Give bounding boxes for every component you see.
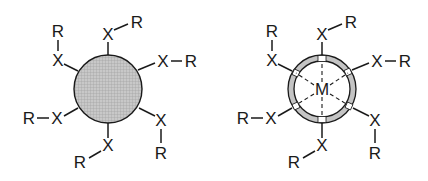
r-label-lower-left: R [237, 109, 249, 128]
bond-upper-left [64, 64, 78, 71]
xr-bond-bottom [89, 151, 101, 158]
x-label-lower-left: X [265, 109, 276, 128]
bond-upper-left [278, 64, 292, 71]
x-label-lower-right: X [369, 111, 380, 130]
dash-lower-left [296, 94, 314, 105]
x-label-upper-right: X [157, 52, 168, 71]
r-label-lower-left: R [23, 109, 35, 128]
bond-lower-right [139, 108, 155, 116]
x-label-lower-left: X [51, 109, 62, 128]
x-label-top: X [102, 25, 113, 44]
r-label-upper-left: R [266, 22, 278, 41]
metal-center-label: M [315, 80, 329, 99]
x-label-upper-right: X [371, 52, 382, 71]
xr-bond-top [114, 24, 128, 30]
right-figure: M X X X X X X R R R R R R [237, 13, 411, 172]
bond-lower-right [353, 108, 369, 116]
bond-upper-right [352, 63, 369, 70]
r-label-upper-left: R [52, 22, 64, 41]
r-label-upper-right: R [399, 52, 411, 71]
r-label-upper-right: R [185, 52, 197, 71]
x-label-top: X [316, 25, 327, 44]
nanoparticle-core [74, 55, 142, 123]
r-label-bottom: R [288, 153, 300, 172]
dash-lower-right [330, 94, 348, 105]
bond-upper-right [138, 63, 155, 70]
left-figure: X X X X X X R R R R R R [23, 13, 197, 172]
x-label-upper-left: X [266, 51, 277, 70]
r-label-bottom: R [74, 153, 86, 172]
r-label-lower-right: R [155, 144, 167, 163]
diagram-canvas: X X X X X X R R R R R R [0, 0, 428, 181]
x-label-bottom: X [316, 136, 327, 155]
x-label-bottom: X [102, 136, 113, 155]
bond-lower-left [64, 108, 78, 116]
xr-bond-bottom [303, 151, 315, 158]
r-label-top: R [131, 13, 143, 32]
x-label-upper-left: X [52, 51, 63, 70]
bond-lower-left [278, 108, 292, 116]
xr-bond-top [328, 24, 342, 30]
r-label-lower-right: R [369, 144, 381, 163]
r-label-top: R [345, 13, 357, 32]
x-label-lower-right: X [155, 111, 166, 130]
dash-upper-right [330, 73, 348, 85]
